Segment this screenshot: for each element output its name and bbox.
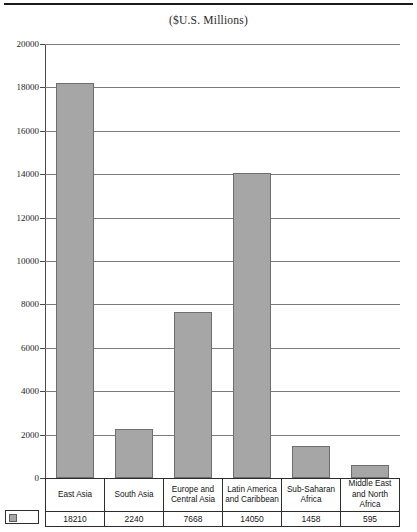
gridline	[45, 44, 400, 45]
category-label-line: Latin America	[227, 485, 277, 494]
bar	[351, 465, 389, 478]
gridline	[45, 131, 400, 132]
value-cell: 595	[341, 512, 400, 527]
gridline	[45, 391, 400, 392]
y-axis-tick-label: 10000	[17, 257, 40, 266]
y-axis-tick-label: 14000	[17, 170, 40, 179]
category-data-table: East AsiaSouth AsiaEurope andCentral Asi…	[45, 478, 400, 527]
value-row: 1821022407668140501458595	[46, 512, 400, 527]
y-axis-tick	[40, 87, 45, 88]
y-axis-tick	[40, 131, 45, 132]
category-label-line: Africa	[360, 500, 381, 509]
gridline	[45, 304, 400, 305]
chart-page: ($U.S. Millions) 20000180001600014000120…	[0, 0, 417, 532]
category-label-cell: Latin Americaand Caribbean	[223, 479, 282, 512]
category-label-line: South Asia	[114, 490, 153, 499]
y-axis-tick-label: 2000	[21, 431, 39, 440]
category-label-line: East Asia	[58, 490, 92, 499]
category-label-row: East AsiaSouth AsiaEurope andCentral Asi…	[46, 479, 400, 512]
value-cell: 2240	[105, 512, 164, 527]
category-label-cell: Middle Eastand NorthAfrica	[341, 479, 400, 512]
y-axis-tick	[40, 261, 45, 262]
category-label-line: Africa	[301, 495, 322, 504]
gridline	[45, 261, 400, 262]
category-label-line: Europe and	[172, 485, 214, 494]
y-axis-tick	[40, 435, 45, 436]
bar	[174, 312, 212, 478]
y-axis-tick-label: 18000	[17, 83, 40, 92]
value-cell: 7668	[164, 512, 223, 527]
chart-title: ($U.S. Millions)	[0, 14, 417, 26]
category-label-line: Sub-Saharan	[287, 485, 335, 494]
y-axis-tick	[40, 348, 45, 349]
top-divider-rule	[4, 3, 413, 5]
gridline	[45, 218, 400, 219]
gridline	[45, 435, 400, 436]
plot-area	[45, 44, 400, 478]
y-axis-tick	[40, 304, 45, 305]
gridline	[45, 348, 400, 349]
y-axis-tick-label: 6000	[21, 344, 39, 353]
legend-cell	[5, 510, 39, 524]
category-label-line: Middle East	[349, 479, 392, 488]
gridline	[45, 174, 400, 175]
y-axis-tick-label: 16000	[17, 127, 40, 136]
y-axis-tick	[40, 391, 45, 392]
gridline	[45, 87, 400, 88]
bar	[233, 173, 271, 478]
y-axis-tick-label: 8000	[21, 300, 39, 309]
value-cell: 14050	[223, 512, 282, 527]
y-axis-tick-label: 4000	[21, 387, 39, 396]
y-axis-tick-label: 0	[35, 474, 40, 483]
category-label-cell: Sub-SaharanAfrica	[282, 479, 341, 512]
category-label-cell: Europe andCentral Asia	[164, 479, 223, 512]
y-axis-tick	[40, 218, 45, 219]
category-label-cell: South Asia	[105, 479, 164, 512]
value-cell: 18210	[46, 512, 105, 527]
category-label-cell: East Asia	[46, 479, 105, 512]
bar	[292, 446, 330, 478]
value-cell: 1458	[282, 512, 341, 527]
category-label-line: and North	[352, 490, 388, 499]
legend-swatch-icon	[9, 514, 17, 522]
category-label-line: and Caribbean	[225, 495, 279, 504]
bar	[56, 83, 94, 478]
y-axis-tick-label: 20000	[17, 40, 40, 49]
category-label-line: Central Asia	[171, 495, 215, 504]
y-axis-labels: 2000018000160001400012000100008000600040…	[0, 44, 39, 479]
y-axis-tick	[40, 174, 45, 175]
bar	[115, 429, 153, 478]
y-axis-tick	[40, 44, 45, 45]
y-axis-tick-label: 12000	[17, 214, 40, 223]
